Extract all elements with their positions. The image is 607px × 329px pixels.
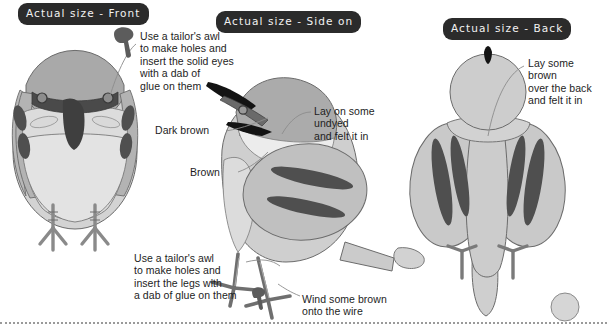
page-bottom-dotted-rule: [0, 322, 607, 326]
page-canvas: Actual size - Front Actual size - Side o…: [0, 0, 607, 329]
illustration-canvas: [0, 0, 607, 329]
front-eye-left: [37, 93, 47, 103]
leader-wire: [278, 284, 300, 296]
awl-icon-secondary: [252, 287, 265, 310]
side-eye: [239, 106, 247, 114]
note-brown: Brown: [190, 166, 240, 178]
back-spine: [466, 130, 508, 277]
back-detail-dot: [551, 293, 579, 321]
note-insert-legs: Use a tailor's awl to make holes and ins…: [134, 252, 246, 302]
front-eye-right: [103, 93, 113, 103]
note-lay-brown-back: Lay some brown over the back and felt it…: [528, 57, 607, 107]
front-view: [11, 50, 138, 250]
badge-actual-size-back: Actual size - Back: [443, 18, 571, 40]
side-tail: [340, 242, 394, 271]
awl-icon: [114, 27, 133, 58]
note-wind-wire: Wind some brown onto the wire: [302, 293, 412, 318]
back-head: [450, 54, 526, 130]
note-dark-brown: Dark brown: [155, 124, 225, 136]
badge-actual-size-front: Actual size - Front: [18, 3, 149, 25]
note-lay-undyed: Lay on some undyed and felt it in: [314, 105, 410, 142]
back-wool-tuft: [394, 248, 424, 269]
note-insert-eyes: Use a tailor's awl to make holes and ins…: [140, 30, 248, 92]
